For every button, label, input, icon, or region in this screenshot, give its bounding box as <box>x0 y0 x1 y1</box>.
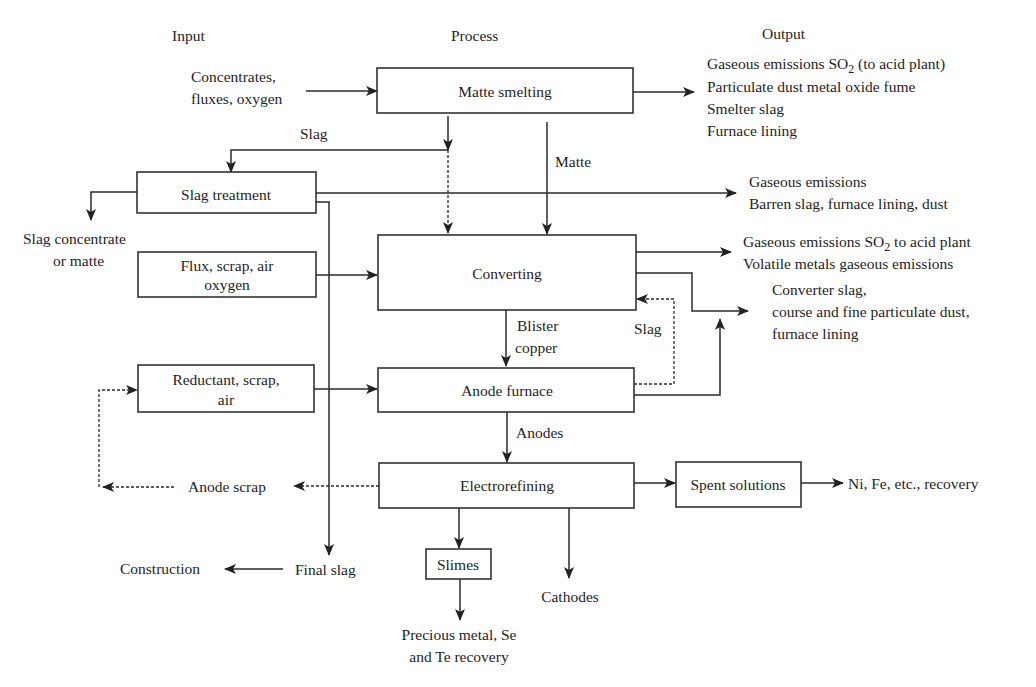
slimes-label: Slimes <box>437 556 479 573</box>
spent-solutions-label: Spent solutions <box>690 476 785 493</box>
concentrates-label-2: fluxes, oxygen <box>191 90 283 107</box>
slag-concentrate-label-2: or matte <box>53 252 104 269</box>
matte-smelting-box: Matte smelting <box>377 68 633 113</box>
header-input: Input <box>172 27 205 44</box>
matte-label: Matte <box>555 153 591 170</box>
slag-treatment-box: Slag treatment <box>137 172 316 213</box>
anode-scrap-to-reductant-dashed-arrow <box>99 390 137 487</box>
anode-furnace-box: Anode furnace <box>378 368 634 412</box>
converting-output-line-2: Volatile metals gaseous emissions <box>743 255 953 272</box>
cathodes-label: Cathodes <box>541 588 599 605</box>
electrorefining-box: Electrorefining <box>379 463 634 508</box>
matte-smelting-label: Matte smelting <box>458 83 552 100</box>
slag-concentrate-label-1: Slag concentrate <box>23 230 126 247</box>
final-slag-arrow <box>316 202 329 555</box>
final-slag-label: Final slag <box>295 561 356 578</box>
slag-return-label: Slag <box>634 320 662 337</box>
reductant-box-line-2: air <box>218 391 235 408</box>
reductant-box-line-1: Reductant, scrap, <box>172 371 279 388</box>
ni-fe-recovery-label: Ni, Fe, etc., recovery <box>848 475 979 492</box>
anode-scrap-label: Anode scrap <box>188 478 266 495</box>
spent-solutions-box: Spent solutions <box>676 462 801 507</box>
reductant-scrap-air-box: Reductant, scrap, air <box>138 365 314 412</box>
electrorefining-label: Electrorefining <box>460 477 554 494</box>
slag-treatment-output-1: Gaseous emissions <box>749 173 867 190</box>
precious-metal-label-2: and Te recovery <box>409 648 509 665</box>
smelting-output-line-3: Smelter slag <box>707 100 784 117</box>
blister-copper-label-1: Blister <box>517 317 559 334</box>
smelting-output-line-4: Furnace lining <box>707 122 797 139</box>
construction-label: Construction <box>120 560 200 577</box>
slag-treatment-label: Slag treatment <box>181 186 272 203</box>
converting-label: Converting <box>472 265 542 282</box>
slag-top-label: Slag <box>300 125 328 142</box>
converter-slag-line-3: furnace lining <box>772 325 859 342</box>
converting-box: Converting <box>378 235 636 310</box>
header-process: Process <box>451 27 498 44</box>
converting-output-line-1: Gaseous emissions SO2 to acid plant <box>743 233 971 254</box>
flux-box-line-1: Flux, scrap, air <box>181 257 275 274</box>
slag-to-treatment-arrow <box>231 150 448 172</box>
slag-concentrate-arrow <box>91 192 137 220</box>
anodes-label: Anodes <box>516 424 563 441</box>
precious-metal-label-1: Precious metal, Se <box>402 626 517 643</box>
blister-copper-label-2: copper <box>515 339 558 356</box>
smelting-output-line-1: Gaseous emissions SO2 (to acid plant) <box>707 55 945 76</box>
slag-treatment-output-2: Barren slag, furnace lining, dust <box>749 195 949 212</box>
converting-slag-output-arrow <box>636 273 748 311</box>
flux-scrap-air-box: Flux, scrap, air oxygen <box>138 252 316 297</box>
slimes-box: Slimes <box>426 549 491 579</box>
flux-box-line-2: oxygen <box>204 276 250 293</box>
converter-slag-line-2: course and fine particulate dust, <box>772 303 970 320</box>
converter-slag-line-1: Converter slag, <box>772 281 867 298</box>
slag-return-dashed-arrow <box>634 299 674 384</box>
smelting-output-line-2: Particulate dust metal oxide fume <box>707 78 915 95</box>
concentrates-label: Concentrates, <box>191 68 276 85</box>
anode-furnace-label: Anode furnace <box>461 382 553 399</box>
copper-process-flow-diagram: Input Process Output Concentrates, fluxe… <box>0 0 1036 687</box>
header-output: Output <box>762 25 806 42</box>
